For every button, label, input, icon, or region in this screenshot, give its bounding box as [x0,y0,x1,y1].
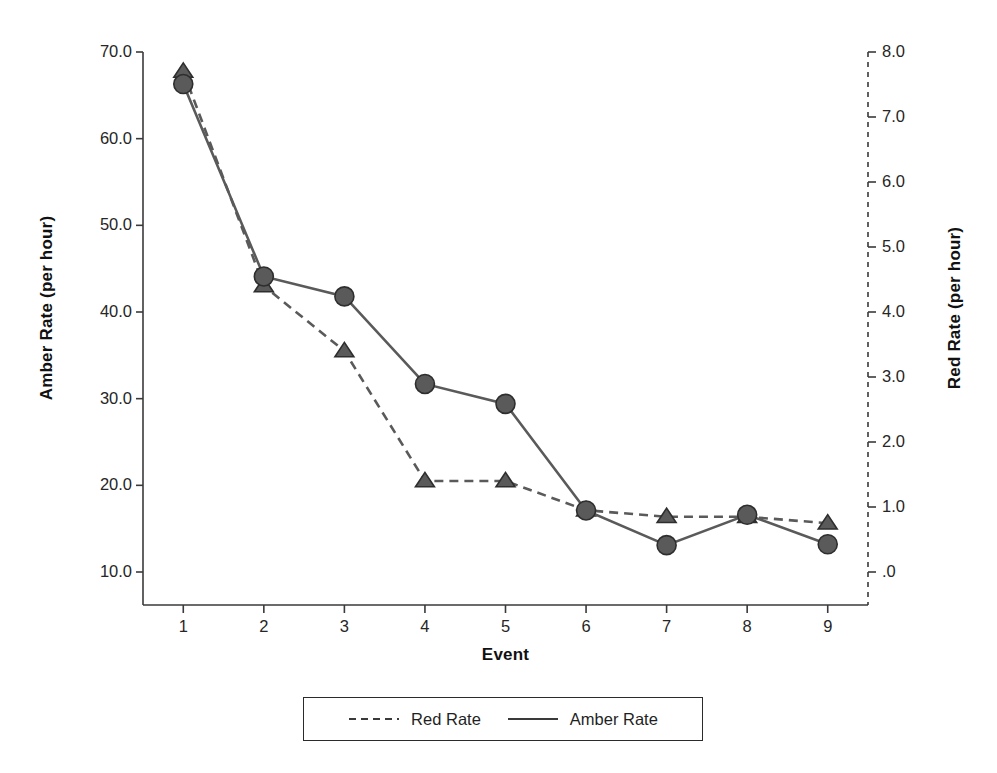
axes-layer [136,52,876,613]
legend-entry-amber-rate: Amber Rate [507,710,658,729]
series-layer [174,63,837,555]
data-point-circle [818,535,837,554]
legend-label-red-rate: Red Rate [411,710,481,729]
series-line [183,72,827,524]
data-point-circle [254,267,273,286]
data-point-circle [415,374,434,393]
legend-swatch-solid [507,713,559,725]
data-point-circle [577,501,596,520]
plot-area [0,0,997,773]
chart-figure: Amber Rate (per hour) Red Rate (per hour… [0,0,997,773]
data-point-circle [738,505,757,524]
data-point-triangle [415,472,434,486]
data-point-triangle [496,472,515,486]
legend-swatch-dashed [348,713,400,725]
data-point-circle [496,394,515,413]
legend-entry-red-rate: Red Rate [348,710,481,729]
legend-label-amber-rate: Amber Rate [570,710,658,729]
series-red-rate [174,63,837,529]
data-point-circle [335,287,354,306]
data-point-circle [657,536,676,555]
chart-legend: Red Rate Amber Rate [303,697,703,741]
data-point-circle [174,75,193,94]
